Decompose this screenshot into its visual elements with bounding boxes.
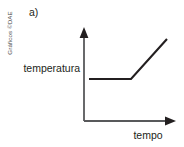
plot-area xyxy=(0,0,184,147)
figure-container: Gráficos ©DAE a) temperatura tempo xyxy=(0,0,184,147)
x-axis-arrow-icon xyxy=(165,117,176,126)
y-axis-arrow-icon xyxy=(80,27,89,38)
data-curve xyxy=(89,39,167,79)
